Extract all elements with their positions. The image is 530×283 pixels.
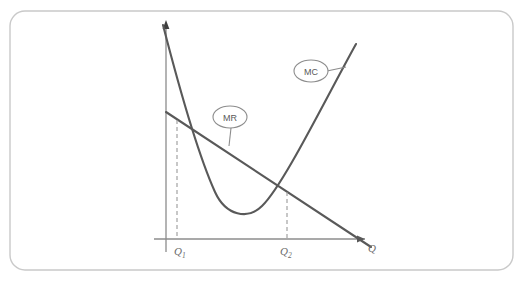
x-tick-label-q1-subscript: 1 bbox=[182, 251, 186, 260]
figure-frame bbox=[10, 11, 513, 270]
economics-chart: Q 1 Q 2 Q MR MC bbox=[0, 0, 530, 283]
callout-mr-label: MR bbox=[223, 113, 237, 123]
figure-container: Q 1 Q 2 Q MR MC bbox=[0, 0, 530, 283]
x-axis-label: Q bbox=[368, 242, 376, 254]
x-tick-label-q2-text: Q bbox=[280, 245, 288, 257]
x-tick-label-q1-text: Q bbox=[174, 245, 182, 257]
x-tick-label-q2-subscript: 2 bbox=[288, 251, 292, 260]
callout-mc-label: MC bbox=[304, 67, 318, 77]
